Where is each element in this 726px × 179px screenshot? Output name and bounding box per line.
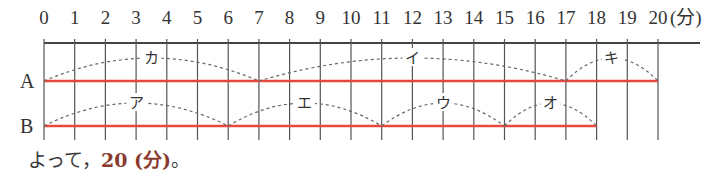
tick-label: 5 xyxy=(193,7,203,28)
tick-label: 17 xyxy=(556,7,575,28)
tick-label: 0 xyxy=(39,7,49,28)
row-label-b: B xyxy=(20,115,33,137)
tick-label: 12 xyxy=(403,7,422,28)
tick-label: 13 xyxy=(434,7,453,28)
tick-label: 9 xyxy=(316,7,326,28)
segment-label: キ xyxy=(604,49,619,67)
tick-label: 14 xyxy=(464,7,484,28)
segment-label: ア xyxy=(129,94,144,112)
segment-label: ウ xyxy=(436,94,451,112)
axis-unit-label: (分) xyxy=(670,7,702,29)
tick-label: 11 xyxy=(373,7,391,28)
segment-label: オ xyxy=(543,94,558,112)
tick-label: 2 xyxy=(101,7,111,28)
row-label-a: A xyxy=(20,70,35,92)
segment-label: イ xyxy=(405,49,420,67)
conclusion-suffix: 。 xyxy=(171,149,190,171)
segment-label: カ xyxy=(144,49,159,67)
tick-label: 20 xyxy=(649,7,668,28)
tick-label: 8 xyxy=(285,7,295,28)
conclusion-text: よって，20 (分)。 xyxy=(28,145,190,172)
tick-label: 16 xyxy=(526,7,545,28)
tick-label: 4 xyxy=(162,7,172,28)
segment-label: エ xyxy=(297,94,312,112)
row-labels: AB xyxy=(20,70,35,137)
tick-label: 15 xyxy=(495,7,514,28)
tick-labels: 01234567891011121314151617181920 xyxy=(39,7,667,28)
tick-label: 18 xyxy=(587,7,606,28)
tick-label: 7 xyxy=(254,7,264,28)
tick-label: 1 xyxy=(70,7,80,28)
conclusion-prefix: よって， xyxy=(28,149,101,171)
tick-label: 19 xyxy=(618,7,637,28)
tick-label: 6 xyxy=(223,7,233,28)
tick-label: 10 xyxy=(342,7,361,28)
answer-value: 20 (分) xyxy=(101,149,171,171)
tick-label: 3 xyxy=(131,7,141,28)
